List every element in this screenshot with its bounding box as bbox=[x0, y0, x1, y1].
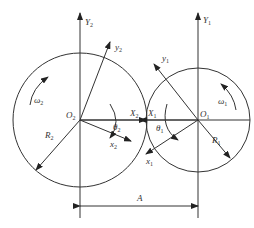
O2-label: O2 bbox=[66, 110, 76, 121]
X2-label: X2 bbox=[129, 108, 139, 119]
theta2-label: θ2 bbox=[113, 122, 120, 133]
O1-label: O1 bbox=[200, 109, 210, 120]
dimension-A-label: A bbox=[136, 193, 143, 203]
Y1-label: Y1 bbox=[203, 15, 211, 26]
y2-axis bbox=[80, 42, 110, 120]
x2-axis bbox=[80, 120, 131, 141]
X1-label: X1 bbox=[147, 108, 157, 119]
R2-arrow bbox=[36, 120, 80, 170]
x1-label: x1 bbox=[145, 156, 153, 167]
R1-label: R1 bbox=[211, 135, 221, 146]
x1-axis bbox=[146, 120, 198, 154]
Y2-label: Y2 bbox=[85, 17, 93, 28]
y2-label: y2 bbox=[114, 42, 122, 53]
omega2-label: ω2 bbox=[34, 95, 43, 106]
R2-label: R2 bbox=[44, 130, 54, 141]
gear-mesh-diagram: Y2 Y1 y2 y1 ω2 ω1 O2 O1 X2 X1 θ2 θ1 x2 x… bbox=[0, 0, 254, 228]
diagram-canvas: Y2 Y1 y2 y1 ω2 ω1 O2 O1 X2 X1 θ2 θ1 x2 x… bbox=[0, 0, 254, 228]
y1-label: y1 bbox=[161, 53, 169, 64]
omega1-label: ω1 bbox=[218, 96, 227, 107]
x2-label: x2 bbox=[109, 139, 117, 150]
theta1-label: θ1 bbox=[156, 123, 163, 134]
